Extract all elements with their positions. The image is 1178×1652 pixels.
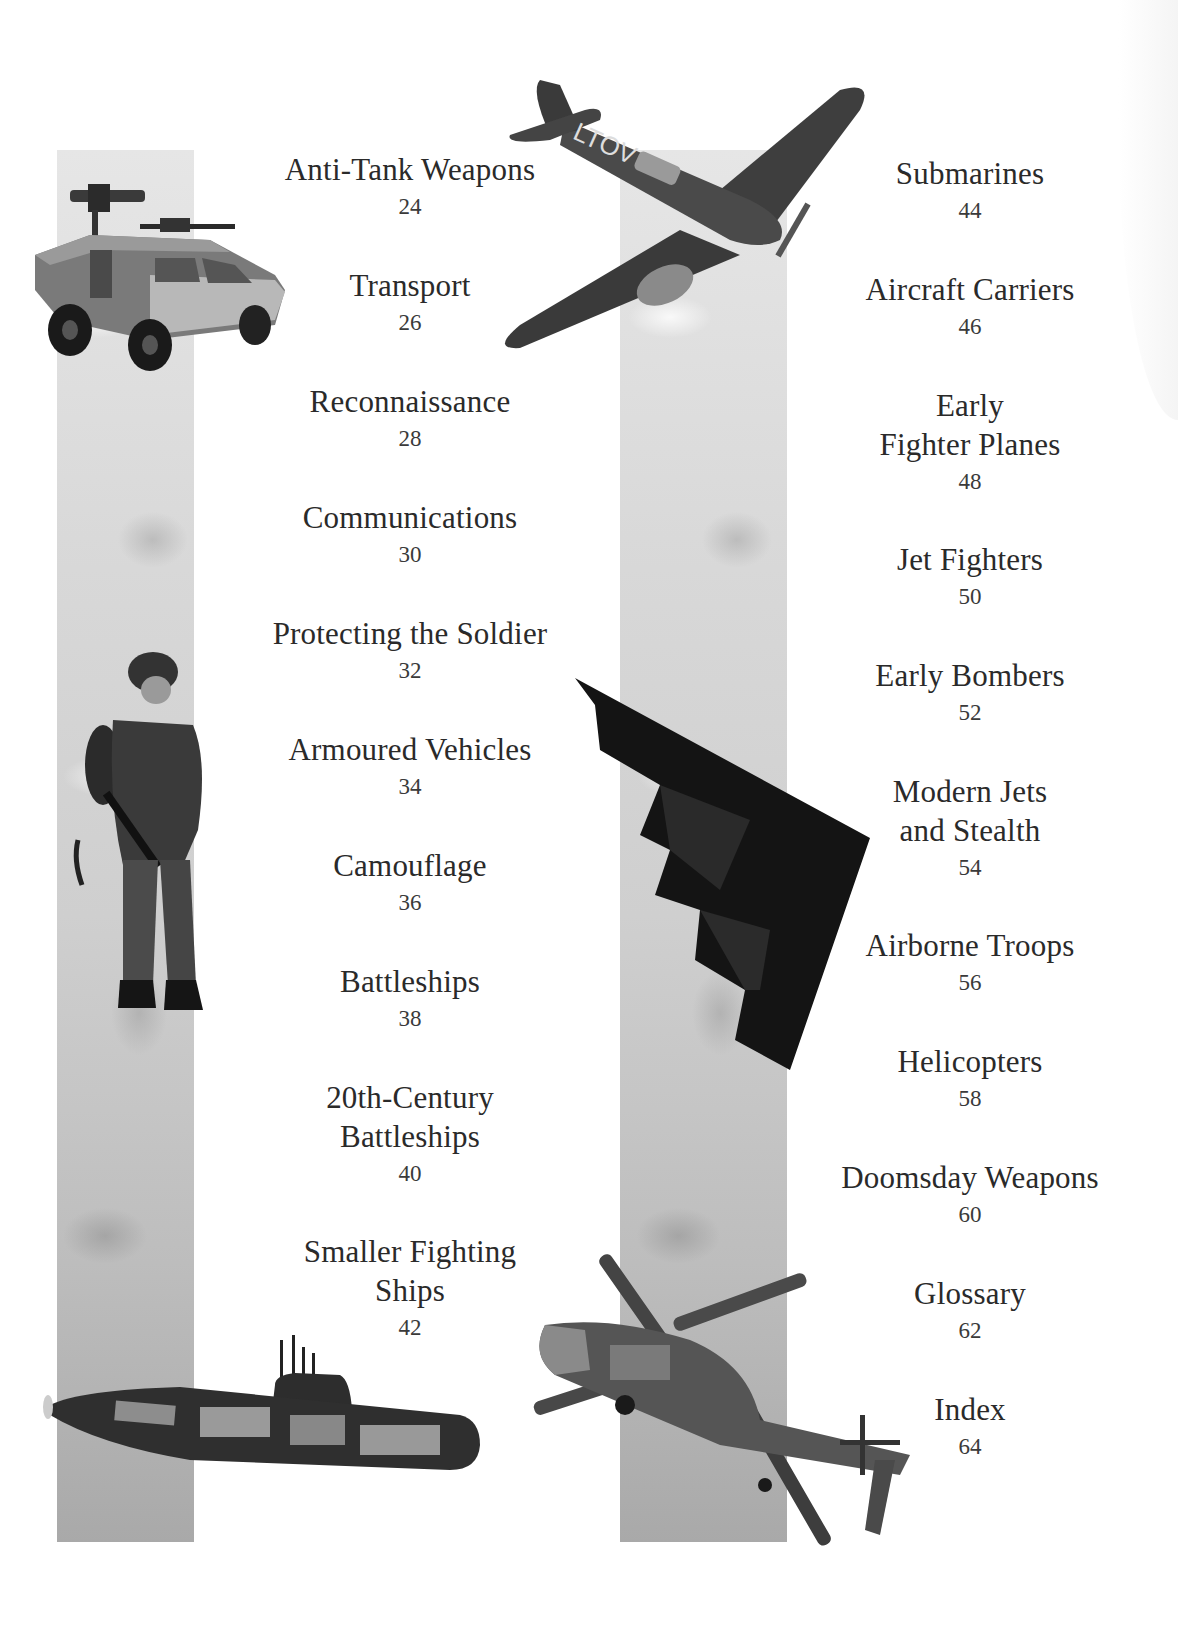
- stealth-bomber-illustration: [560, 660, 880, 1080]
- toc-entry-title: Armoured Vehicles: [245, 730, 575, 769]
- toc-entry-page: 30: [245, 537, 575, 573]
- fighter-plane-illustration: LTOV: [490, 80, 880, 370]
- toc-entry-page: 32: [245, 653, 575, 689]
- toc-entry-page: 40: [245, 1156, 575, 1192]
- toc-entry-title: Protecting the Soldier: [245, 614, 575, 653]
- toc-entry[interactable]: Camouflage 36: [245, 846, 575, 921]
- toc-entry-title: Camouflage: [245, 846, 575, 885]
- toc-entry-page: 28: [245, 421, 575, 457]
- toc-entry[interactable]: Protecting the Soldier 32: [245, 614, 575, 689]
- toc-entry-title: Doomsday Weapons: [820, 1158, 1120, 1197]
- toc-entry-title: Reconnaissance: [245, 382, 575, 421]
- page-edge-shadow: [1118, 0, 1178, 420]
- helicopter-illustration: [520, 1245, 940, 1565]
- toc-entry[interactable]: Communications 30: [245, 498, 575, 573]
- armoured-car-illustration: [30, 180, 300, 380]
- toc-entry-title: Early Fighter Planes: [820, 386, 1120, 464]
- toc-entry[interactable]: Early Fighter Planes 48: [820, 386, 1120, 500]
- toc-entry-page: 58: [820, 1081, 1120, 1117]
- toc-entry-title: Jet Fighters: [820, 540, 1120, 579]
- toc-entry-page: 50: [820, 579, 1120, 615]
- toc-entry[interactable]: Jet Fighters 50: [820, 540, 1120, 615]
- toc-entry-page: 38: [245, 1001, 575, 1037]
- toc-entry-title: Battleships: [245, 962, 575, 1001]
- toc-entry-page: 34: [245, 769, 575, 805]
- toc-entry-title: 20th-Century Battleships: [245, 1078, 575, 1156]
- toc-entry-page: 60: [820, 1197, 1120, 1233]
- submarine-illustration: [40, 1335, 500, 1505]
- toc-entry[interactable]: 20th-Century Battleships 40: [245, 1078, 575, 1192]
- soldier-illustration: [68, 650, 218, 1045]
- toc-entry-page: 48: [820, 464, 1120, 500]
- toc-entry[interactable]: Armoured Vehicles 34: [245, 730, 575, 805]
- toc-entry[interactable]: Doomsday Weapons 60: [820, 1158, 1120, 1233]
- toc-entry-title: Communications: [245, 498, 575, 537]
- toc-entry[interactable]: Reconnaissance 28: [245, 382, 575, 457]
- toc-entry-page: 36: [245, 885, 575, 921]
- toc-entry[interactable]: Battleships 38: [245, 962, 575, 1037]
